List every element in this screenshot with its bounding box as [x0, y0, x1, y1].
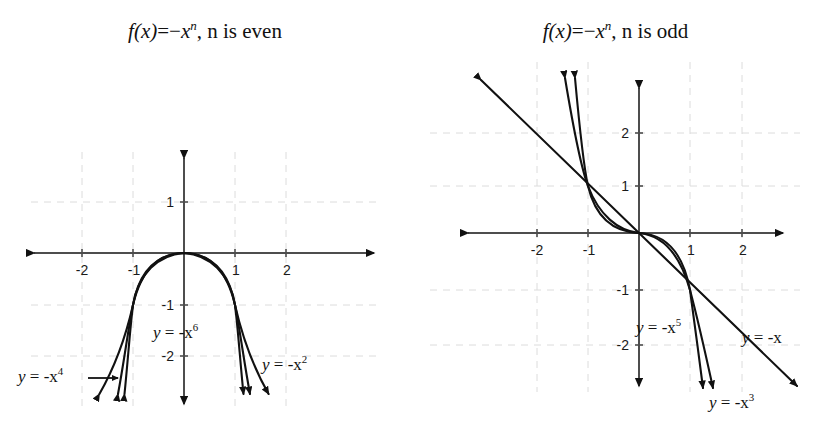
- ytick-even-neg2: -2: [162, 348, 175, 364]
- panel-odd: f(x)=−xn, n is odd: [410, 0, 821, 436]
- xtick-even-pos2: 2: [283, 262, 291, 278]
- label-neg-x3: y = -x3: [709, 393, 754, 412]
- ytick-odd-neg1: -1: [617, 282, 630, 298]
- label-neg-x3-exp: 3: [749, 391, 754, 403]
- label-neg-x4-exp: 4: [58, 365, 63, 377]
- label-neg-x6: y = -x6: [153, 323, 198, 342]
- label-neg-x6-eq: = -x: [165, 323, 193, 342]
- label-neg-x-var: y: [742, 328, 750, 347]
- label-neg-x4-eq: = -x: [30, 367, 58, 386]
- ytick-odd-neg2: -2: [617, 337, 630, 353]
- x-axis-even: -2 -1 1 2: [34, 249, 374, 278]
- xtick-odd-pos1: 1: [687, 242, 695, 258]
- x-axis-odd: -2 -1 1 2: [468, 229, 783, 258]
- label-neg-x4-var: y: [18, 367, 26, 386]
- label-neg-x3-eq: = -x: [721, 393, 749, 412]
- xtick-even-neg2: -2: [76, 262, 89, 278]
- ytick-even-neg1: -1: [162, 297, 175, 313]
- label-neg-x3-var: y: [709, 393, 717, 412]
- polynomial-graphs-figure: f(x)=−xn, n is even: [0, 0, 821, 436]
- ytick-even-pos1: 1: [166, 194, 174, 210]
- ytick-odd-pos2: 2: [621, 125, 629, 141]
- label-neg-x6-exp: 6: [193, 321, 198, 333]
- label-neg-x2-eq: = -x: [274, 355, 302, 374]
- label-neg-x5: y = -x5: [636, 318, 681, 337]
- label-neg-x5-exp: 5: [676, 316, 681, 328]
- xtick-odd-neg1: -1: [583, 242, 596, 258]
- label-neg-x5-eq: = -x: [648, 318, 676, 337]
- y-axis-even: 1 -1 -2: [162, 158, 188, 404]
- label-neg-x-eq: = -x: [754, 328, 782, 347]
- grid-lines-even: [31, 152, 380, 408]
- xtick-odd-neg2: -2: [531, 242, 544, 258]
- label-neg-x5-var: y: [636, 318, 644, 337]
- label-neg-x2: y = -x2: [262, 355, 307, 374]
- ytick-odd-pos1: 1: [621, 178, 629, 194]
- label-neg-x2-exp: 2: [302, 353, 307, 365]
- label-neg-x6-var: y: [153, 323, 161, 342]
- label-neg-x: y = -x: [742, 328, 782, 347]
- panel-even: f(x)=−xn, n is even: [0, 0, 410, 436]
- xtick-odd-pos2: 2: [739, 242, 747, 258]
- label-neg-x2-var: y: [262, 355, 270, 374]
- xtick-even-neg1: -1: [128, 262, 141, 278]
- xtick-even-pos1: 1: [232, 262, 240, 278]
- plot-odd: -2 -1 1 2 2 1 -1 -2: [410, 0, 821, 436]
- label-neg-x4: y = -x4: [18, 367, 63, 386]
